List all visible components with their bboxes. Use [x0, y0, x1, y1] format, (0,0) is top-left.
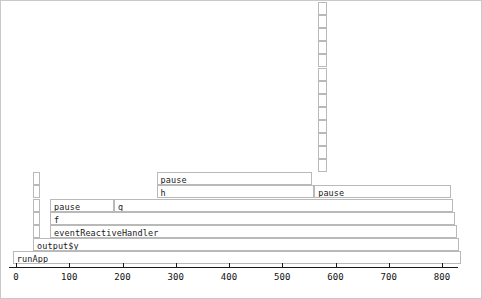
flame-block-label: g [118, 201, 123, 212]
x-axis-tick-label: 300 [168, 272, 184, 282]
flame-block-unlabeled[interactable] [318, 2, 327, 15]
flame-block-pause[interactable]: pause [50, 199, 114, 212]
flame-block-label: pause [318, 187, 344, 198]
x-axis-tick-label: 700 [381, 272, 397, 282]
flame-block-eventreactivehandler[interactable]: eventReactiveHandler [50, 225, 457, 238]
flame-block-unlabeled[interactable] [318, 133, 327, 146]
flame-block-unlabeled[interactable] [318, 94, 327, 107]
x-axis-tick [16, 263, 17, 267]
flame-block-pause[interactable]: pause [314, 185, 450, 198]
flame-block-unlabeled[interactable] [318, 54, 327, 67]
flame-block-unlabeled[interactable] [33, 212, 40, 225]
x-axis-tick-label: 200 [114, 272, 130, 282]
x-axis-tick [442, 263, 443, 267]
flame-block-g[interactable]: g [114, 199, 453, 212]
flame-block-unlabeled[interactable] [318, 28, 327, 41]
x-axis-tick [389, 263, 390, 267]
flamegraph-plot[interactable]: runAppoutput$yeventReactiveHandlerfpause… [1, 1, 482, 299]
flame-block-unlabeled[interactable] [318, 159, 327, 172]
chart-frame: runAppoutput$yeventReactiveHandlerfpause… [0, 0, 482, 299]
x-axis-tick-label: 500 [274, 272, 290, 282]
flame-block-label: pause [54, 201, 80, 212]
flame-block-label: eventReactiveHandler [54, 227, 158, 238]
flame-block-unlabeled[interactable] [318, 68, 327, 81]
x-axis-tick-label: 0 [13, 272, 18, 282]
flame-block-label: h [161, 187, 166, 198]
flame-block-unlabeled[interactable] [318, 146, 327, 159]
x-axis-tick-label: 400 [221, 272, 237, 282]
flame-block-unlabeled[interactable] [318, 41, 327, 54]
flame-block-unlabeled[interactable] [33, 199, 40, 212]
flame-block-unlabeled[interactable] [318, 81, 327, 94]
flame-block-unlabeled[interactable] [318, 15, 327, 28]
x-axis-tick-label: 600 [327, 272, 343, 282]
flame-block-f[interactable]: f [50, 212, 455, 225]
flame-block-pause[interactable]: pause [157, 172, 312, 185]
x-axis-tick [229, 263, 230, 267]
flame-block-unlabeled[interactable] [33, 185, 40, 198]
flame-block-unlabeled[interactable] [318, 120, 327, 133]
flame-block-output-y[interactable]: output$y [33, 238, 459, 251]
flame-block-label: runApp [17, 253, 48, 264]
x-axis-tick [282, 263, 283, 267]
x-axis-tick [176, 263, 177, 267]
flame-block-unlabeled[interactable] [318, 107, 327, 120]
flame-block-label: output$y [37, 240, 79, 251]
flame-block-h[interactable]: h [157, 185, 315, 198]
flame-block-label: pause [161, 174, 187, 185]
flame-block-label: f [54, 214, 59, 225]
flame-block-unlabeled[interactable] [33, 172, 40, 185]
x-axis-tick-label: 800 [434, 272, 450, 282]
x-axis-line [9, 267, 458, 268]
x-axis-tick [69, 263, 70, 267]
x-axis-tick [123, 263, 124, 267]
flame-block-unlabeled[interactable] [33, 225, 40, 238]
x-axis-tick [336, 263, 337, 267]
flame-block-runapp[interactable]: runApp [13, 251, 461, 264]
x-axis-tick-label: 100 [61, 272, 77, 282]
